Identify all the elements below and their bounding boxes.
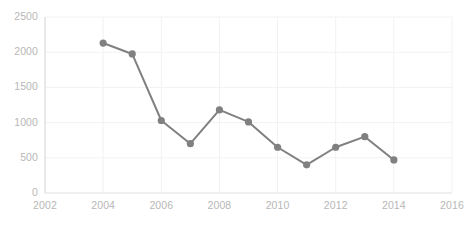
y-axis-tick-label: 1500	[4, 80, 38, 92]
chart-canvas	[0, 0, 472, 226]
data-point-marker	[100, 39, 107, 46]
data-point-marker	[216, 106, 223, 113]
x-axis-tick-label: 2002	[25, 199, 65, 211]
data-point-marker	[274, 144, 281, 151]
x-axis-tick-label: 2006	[141, 199, 181, 211]
x-axis-tick-label: 2008	[199, 199, 239, 211]
x-axis-tick-label: 2010	[258, 199, 298, 211]
data-point-marker	[390, 156, 397, 163]
data-point-marker	[361, 133, 368, 140]
y-axis-tick-label: 500	[4, 151, 38, 163]
y-axis-tick-label: 2000	[4, 45, 38, 57]
data-series-line	[103, 43, 394, 165]
data-point-marker	[129, 50, 136, 57]
x-axis-tick-label: 2004	[83, 199, 123, 211]
data-point-markers	[100, 39, 398, 168]
data-point-marker	[187, 140, 194, 147]
y-axis-tick-label: 0	[4, 186, 38, 198]
x-axis-tick-label: 2014	[374, 199, 414, 211]
data-point-marker	[158, 117, 165, 124]
data-point-marker	[245, 118, 252, 125]
y-axis-tick-label: 2500	[4, 10, 38, 22]
data-point-marker	[332, 144, 339, 151]
y-axis-tick-label: 1000	[4, 116, 38, 128]
line-chart: 05001000150020002500 2002200420062008201…	[0, 0, 472, 226]
data-point-marker	[303, 161, 310, 168]
x-axis-tick-label: 2016	[432, 199, 472, 211]
x-axis-tick-label: 2012	[316, 199, 356, 211]
